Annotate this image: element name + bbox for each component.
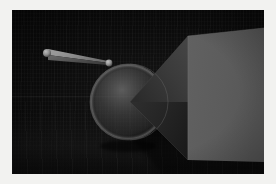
render-viewport[interactable] [12,10,264,174]
wedge-endpoint-sphere-left [43,49,51,57]
wedge-endpoint-sphere-right [106,60,113,67]
render-screenshot: 3D Rendered Scene Dark 3D viewport rende… [0,0,276,184]
sphere-contact-shadow [100,140,156,152]
box-front-face [188,28,264,162]
small-tapered-wedge [48,49,109,65]
scene-geometry [12,10,264,174]
